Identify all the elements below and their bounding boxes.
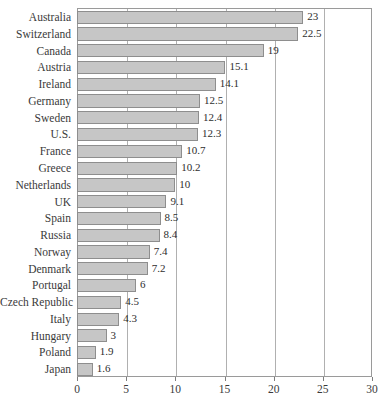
bar [77, 44, 264, 57]
bar-value-label: 10 [179, 177, 190, 192]
bar-value-label: 9.1 [170, 194, 184, 209]
bar-value-label: 10.7 [186, 143, 205, 158]
bar [77, 145, 182, 158]
bar [77, 245, 150, 258]
bar [77, 279, 136, 292]
category-label: U.S. [0, 125, 74, 143]
bar-value-label: 7.4 [154, 244, 168, 259]
bar-chart: AustraliaSwitzerlandCanadaAustriaIreland… [0, 0, 389, 411]
category-label: UK [0, 193, 74, 211]
bar-value-label: 8.5 [165, 210, 179, 225]
bar-value-label: 8.4 [164, 227, 178, 242]
bar [77, 346, 96, 359]
bar [77, 11, 303, 24]
table-row: 4.3 [77, 310, 372, 328]
x-tick-label: 20 [268, 382, 280, 396]
bar-series: 2322.51915.114.112.512.412.310.710.2109.… [77, 8, 372, 377]
bar-value-label: 4.3 [123, 311, 137, 326]
table-row: 15.1 [77, 58, 372, 76]
bar-value-label: 1.9 [100, 344, 114, 359]
category-label: Switzerland [0, 25, 74, 43]
x-tick [372, 377, 373, 381]
category-label: Norway [0, 243, 74, 261]
x-tick-label: 10 [170, 382, 182, 396]
category-label: Russia [0, 226, 74, 244]
table-row: 12.5 [77, 92, 372, 110]
category-label: Japan [0, 360, 74, 378]
bar-value-label: 12.3 [202, 126, 221, 141]
category-label: Ireland [0, 75, 74, 93]
table-row: 10.2 [77, 159, 372, 177]
table-row: 10 [77, 176, 372, 194]
category-label: France [0, 142, 74, 160]
bar-value-label: 10.2 [181, 160, 200, 175]
table-row: 14.1 [77, 75, 372, 93]
table-row: 7.4 [77, 243, 372, 261]
bar [77, 27, 298, 40]
category-label: Denmark [0, 260, 74, 278]
bar [77, 178, 175, 191]
category-label: Poland [0, 343, 74, 361]
x-tick-label: 25 [317, 382, 329, 396]
table-row: 8.5 [77, 209, 372, 227]
table-row: 1.6 [77, 360, 372, 378]
category-label: Greece [0, 159, 74, 177]
bar [77, 229, 160, 242]
bar [77, 329, 107, 342]
category-label: Czech Republic [0, 293, 74, 311]
bar-value-label: 12.4 [203, 110, 222, 125]
bar-value-label: 1.6 [97, 361, 111, 376]
bar-value-label: 15.1 [229, 59, 248, 74]
table-row: 6 [77, 276, 372, 294]
category-label: Netherlands [0, 176, 74, 194]
table-row: 4.5 [77, 293, 372, 311]
bar-value-label: 19 [268, 43, 279, 58]
x-tick [274, 377, 275, 381]
category-label: Sweden [0, 109, 74, 127]
bar [77, 262, 148, 275]
table-row: 23 [77, 8, 372, 26]
category-label: Portugal [0, 276, 74, 294]
table-row: 3 [77, 327, 372, 345]
bar-value-label: 3 [111, 328, 117, 343]
table-row: 8.4 [77, 226, 372, 244]
x-tick-label: 15 [219, 382, 231, 396]
bar [77, 78, 216, 91]
x-tick [323, 377, 324, 381]
table-row: 12.3 [77, 125, 372, 143]
table-row: 7.2 [77, 260, 372, 278]
bar-value-label: 7.2 [152, 261, 166, 276]
bar [77, 61, 225, 74]
category-label: Canada [0, 42, 74, 60]
category-axis-labels: AustraliaSwitzerlandCanadaAustriaIreland… [0, 8, 74, 377]
table-row: 9.1 [77, 193, 372, 211]
bar [77, 212, 161, 225]
bar [77, 111, 199, 124]
table-row: 22.5 [77, 25, 372, 43]
bar [77, 296, 121, 309]
category-label: Austria [0, 58, 74, 76]
bar-value-label: 6 [140, 277, 146, 292]
bar-value-label: 12.5 [204, 93, 223, 108]
x-tick [126, 377, 127, 381]
category-label: Spain [0, 209, 74, 227]
bar [77, 195, 166, 208]
bar [77, 94, 200, 107]
bar-value-label: 23 [307, 9, 318, 24]
x-axis-labels: 051015202530 [0, 382, 389, 398]
bar [77, 363, 93, 376]
category-label: Hungary [0, 327, 74, 345]
bar-value-label: 14.1 [220, 76, 239, 91]
bar [77, 313, 119, 326]
x-tick-label: 5 [123, 382, 129, 396]
category-label: Australia [0, 8, 74, 26]
bar-value-label: 22.5 [302, 26, 321, 41]
bar [77, 128, 198, 141]
x-tick [77, 377, 78, 381]
table-row: 1.9 [77, 343, 372, 361]
x-tick [175, 377, 176, 381]
table-row: 10.7 [77, 142, 372, 160]
category-label: Italy [0, 310, 74, 328]
bar [77, 162, 177, 175]
bar-value-label: 4.5 [125, 294, 139, 309]
